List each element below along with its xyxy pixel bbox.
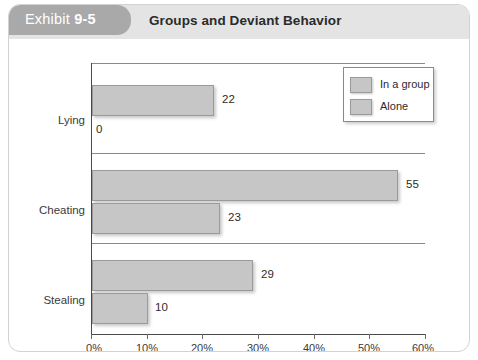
x-tick-mark-10 bbox=[147, 334, 148, 339]
exhibit-tab-label: Exhibit 9-5 bbox=[25, 11, 96, 27]
chart-title: Groups and Deviant Behavior bbox=[149, 13, 342, 28]
legend-label-in-a-group: In a group bbox=[380, 78, 430, 90]
gridline-cheating-stealing bbox=[91, 243, 425, 244]
x-tick-label-50: 50% bbox=[358, 342, 380, 352]
bar-cheating-in-a-group bbox=[92, 170, 398, 201]
x-tick-label-60: 60% bbox=[412, 342, 434, 352]
chart-legend: In a group Alone bbox=[343, 67, 434, 122]
x-tick-mark-50 bbox=[369, 334, 370, 339]
category-label-stealing: Stealing bbox=[43, 294, 85, 306]
legend-label-alone: Alone bbox=[380, 100, 408, 112]
x-tick-label-40: 40% bbox=[303, 342, 325, 352]
x-tick-label-30: 30% bbox=[247, 342, 269, 352]
exhibit-header: Exhibit 9-5 Groups and Deviant Behavior bbox=[9, 5, 470, 39]
bar-value-lying-alone: 0 bbox=[96, 123, 102, 135]
x-tick-mark-20 bbox=[202, 334, 203, 339]
bar-value-stealing-alone: 10 bbox=[155, 301, 168, 313]
chart-plot-area: Lying Cheating Stealing 22 0 55 23 29 bbox=[9, 39, 470, 352]
bar-value-lying-in-a-group: 22 bbox=[222, 93, 235, 105]
exhibit-tab-prefix: Exhibit bbox=[25, 11, 70, 27]
bar-value-stealing-in-a-group: 29 bbox=[261, 268, 274, 280]
legend-swatch-alone bbox=[350, 99, 372, 115]
bar-value-cheating-alone: 23 bbox=[228, 211, 241, 223]
exhibit-tab-number: 9-5 bbox=[74, 11, 96, 27]
bar-value-cheating-in-a-group: 55 bbox=[406, 178, 419, 190]
gridline-lying-cheating bbox=[91, 153, 425, 154]
x-tick-label-20: 20% bbox=[191, 342, 213, 352]
bar-cheating-alone bbox=[92, 203, 220, 234]
category-label-lying: Lying bbox=[58, 114, 85, 126]
exhibit-number-tab: Exhibit 9-5 bbox=[9, 5, 131, 35]
category-axis-labels: Lying Cheating Stealing bbox=[9, 63, 85, 334]
x-tick-mark-30 bbox=[258, 334, 259, 339]
category-label-cheating: Cheating bbox=[39, 204, 85, 216]
x-tick-mark-60 bbox=[425, 334, 426, 339]
x-tick-mark-0 bbox=[91, 334, 92, 339]
bar-stealing-alone bbox=[92, 293, 148, 324]
x-tick-label-0: 0% bbox=[86, 342, 102, 352]
exhibit-figure: Exhibit 9-5 Groups and Deviant Behavior … bbox=[8, 4, 470, 352]
plot-box: 22 0 55 23 29 10 In a group bbox=[91, 63, 425, 334]
x-tick-label-10: 10% bbox=[136, 342, 158, 352]
bar-lying-in-a-group bbox=[92, 85, 214, 116]
gridline-top bbox=[91, 63, 425, 64]
bar-stealing-in-a-group bbox=[92, 260, 253, 291]
x-tick-mark-40 bbox=[314, 334, 315, 339]
legend-swatch-in-a-group bbox=[350, 77, 372, 93]
